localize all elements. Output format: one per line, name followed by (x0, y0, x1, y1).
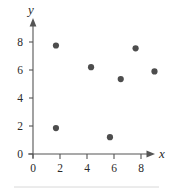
data-point (151, 68, 157, 74)
data-point (53, 125, 59, 131)
y-tick-label: 0 (17, 148, 23, 160)
data-point (53, 42, 59, 48)
data-points-layer (53, 42, 158, 140)
scatter-plot-figure: y x 8 6 4 2 0 0 2 4 6 8 (0, 0, 173, 191)
y-axis (30, 18, 37, 158)
x-axis (28, 151, 155, 158)
data-point (88, 64, 94, 70)
y-tick-label: 2 (17, 120, 23, 132)
y-tick-label: 6 (17, 64, 23, 76)
y-tick-label: 4 (17, 92, 23, 104)
x-tick-label: 2 (57, 162, 63, 174)
data-point (133, 45, 139, 51)
scatter-plot-canvas: y x 8 6 4 2 0 0 2 4 6 8 (0, 0, 173, 191)
x-axis-arrowhead-icon (147, 151, 156, 158)
y-axis-arrowhead-icon (30, 18, 37, 27)
x-tick-label: 0 (30, 162, 36, 174)
data-point (107, 134, 113, 140)
data-point (118, 76, 124, 82)
x-axis-ticks: 0 2 4 6 8 (30, 154, 144, 174)
y-axis-ticks: 8 6 4 2 0 (17, 36, 33, 160)
x-tick-label: 4 (84, 162, 90, 174)
x-tick-label: 6 (111, 162, 117, 174)
x-tick-label: 8 (138, 162, 144, 174)
x-axis-label: x (158, 146, 165, 161)
y-tick-label: 8 (17, 36, 23, 48)
y-axis-label: y (26, 2, 34, 17)
